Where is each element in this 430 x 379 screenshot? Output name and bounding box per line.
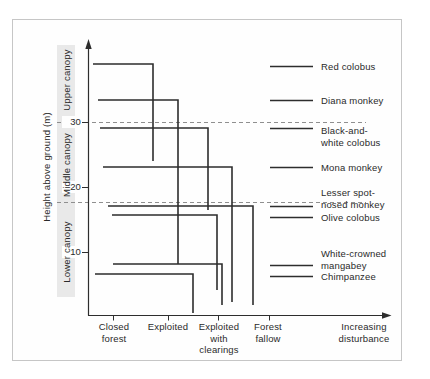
- legend-label-mona-monkey: Mona monkey: [321, 162, 382, 174]
- y-axis-title: Height above ground (m): [41, 112, 52, 222]
- legend-label-red-colobus: Red colobus: [321, 61, 375, 73]
- x-category-label-1: Exploited: [148, 321, 188, 333]
- species-line-diana-monkey: [98, 100, 178, 264]
- x-axis-arrowhead: [382, 312, 392, 318]
- legend-label-olive-colobus: Olive colobus: [321, 212, 380, 224]
- species-line-white-crowned-mangabey: [113, 264, 222, 305]
- species-line-black-and-white-colobus: [100, 128, 208, 210]
- legend-label-lesser-spot-nosed-monkey: Lesser spot- nosed monkey: [321, 187, 385, 211]
- legend-label-black-and-white-colobus: Black-and- white colobus: [321, 125, 381, 149]
- x-category-label-3: Forest fallow: [254, 321, 282, 344]
- species-line-red-colobus: [93, 64, 153, 161]
- legend-label-diana-monkey: Diana monkey: [321, 95, 384, 107]
- legend-label-white-crowned-mangabey: White-crowned mangabey: [321, 248, 386, 272]
- species-line-olive-colobus: [112, 215, 217, 290]
- y-tick-label-30: 30: [62, 116, 82, 128]
- canopy-zone-label-2: Lower canopy: [61, 221, 72, 283]
- x-category-label-2: Exploited with clearings: [199, 321, 239, 356]
- x-category-label-0: Closed forest: [99, 321, 129, 344]
- x-axis-title: Increasing disturbance: [339, 321, 390, 344]
- species-line-mona-monkey: [103, 167, 232, 302]
- canopy-zone-label-1: Middle canopy: [61, 133, 72, 197]
- y-axis-arrowhead: [85, 39, 91, 49]
- legend-label-chimpanzee: Chimpanzee: [321, 271, 376, 283]
- primate-canopy-disturbance-figure: Height above ground (m) 302010Closed for…: [0, 0, 430, 379]
- canopy-zone-label-0: Upper canopy: [61, 49, 72, 111]
- species-line-chimpanzee: [95, 274, 193, 313]
